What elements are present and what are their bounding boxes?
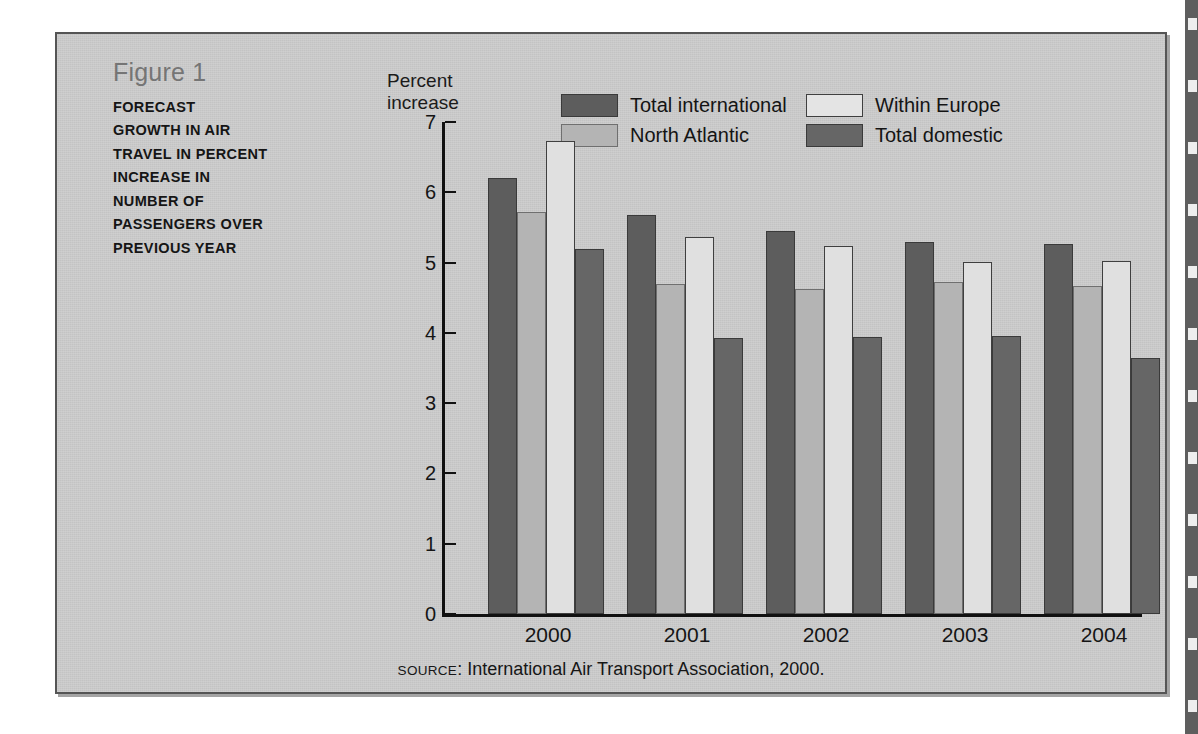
page-edge-notch: [1188, 514, 1197, 526]
bar[interactable]: [934, 282, 963, 614]
figure-title-line: PREVIOUS YEAR: [113, 237, 328, 260]
figure-title-line: TRAVEL IN PERCENT: [113, 143, 328, 166]
bar[interactable]: [1102, 261, 1131, 614]
bar-group: [766, 122, 886, 614]
bar[interactable]: [853, 337, 882, 614]
bar-group: [627, 122, 747, 614]
figure-title-line: NUMBER OF: [113, 190, 328, 213]
y-tick-label: 7: [406, 111, 436, 134]
y-axis-title-line: Percent: [387, 70, 477, 92]
x-tick-label: 2002: [803, 623, 850, 647]
bar[interactable]: [766, 231, 795, 614]
bar-group: [488, 122, 608, 614]
source-note: SOURCE: International Air Transport Asso…: [57, 659, 1165, 680]
figure-title-line: PASSENGERS OVER: [113, 213, 328, 236]
page-edge-notch: [1188, 266, 1197, 278]
bar[interactable]: [963, 262, 992, 614]
y-tick-label: 2: [406, 462, 436, 485]
chart-plot-area: Percentincrease 01234567 200020012002200…: [442, 72, 1142, 624]
figure-panel: Figure 1 FORECASTGROWTH IN AIRTRAVEL IN …: [55, 32, 1167, 694]
source-text: : International Air Transport Associatio…: [457, 659, 824, 679]
figure-title-line: INCREASE IN: [113, 166, 328, 189]
x-tick-label: 2001: [664, 623, 711, 647]
figure-caption: Figure 1 FORECASTGROWTH IN AIRTRAVEL IN …: [113, 58, 328, 260]
bar[interactable]: [546, 141, 575, 614]
bar[interactable]: [488, 178, 517, 614]
bar-groups: [445, 122, 1142, 614]
figure-number: Figure 1: [113, 58, 328, 87]
bar-group: [1044, 122, 1164, 614]
x-tick-label: 2004: [1081, 623, 1128, 647]
bar-group: [905, 122, 1025, 614]
figure-title-line: FORECAST: [113, 96, 328, 119]
bar[interactable]: [656, 284, 685, 614]
page-edge-artifact: [1185, 0, 1198, 734]
page-edge-notch: [1188, 204, 1197, 216]
page-edge-notch: [1188, 80, 1197, 92]
page-edge-notch: [1188, 638, 1197, 650]
figure-title-line: GROWTH IN AIR: [113, 119, 328, 142]
bar[interactable]: [575, 249, 604, 614]
y-tick-label: 6: [406, 181, 436, 204]
x-axis-line: [442, 614, 1142, 617]
page-edge-notch: [1188, 576, 1197, 588]
y-axis-title: Percentincrease: [387, 70, 477, 114]
x-tick-label: 2003: [942, 623, 989, 647]
bar[interactable]: [685, 237, 714, 614]
y-tick-label: 3: [406, 392, 436, 415]
page-edge-notch: [1188, 328, 1197, 340]
figure-title: FORECASTGROWTH IN AIRTRAVEL IN PERCENTIN…: [113, 96, 328, 260]
bar[interactable]: [1044, 244, 1073, 614]
y-tick-label: 0: [406, 603, 436, 626]
page-edge-notch: [1188, 142, 1197, 154]
page-edge-notch: [1188, 18, 1197, 30]
source-kicker: SOURCE: [398, 663, 458, 678]
bar[interactable]: [795, 289, 824, 614]
bar[interactable]: [992, 336, 1021, 614]
bar[interactable]: [627, 215, 656, 614]
x-tick-label: 2000: [525, 623, 572, 647]
y-tick-label: 4: [406, 321, 436, 344]
bar[interactable]: [1131, 358, 1160, 614]
page-edge-notch: [1188, 390, 1197, 402]
y-tick-label: 1: [406, 532, 436, 555]
bar[interactable]: [517, 212, 546, 614]
page-edge-notch: [1188, 452, 1197, 464]
bar[interactable]: [1073, 286, 1102, 614]
y-tick-label: 5: [406, 251, 436, 274]
page-edge-notch: [1188, 700, 1197, 712]
bar[interactable]: [905, 242, 934, 615]
bar[interactable]: [824, 246, 853, 614]
bar[interactable]: [714, 338, 743, 614]
